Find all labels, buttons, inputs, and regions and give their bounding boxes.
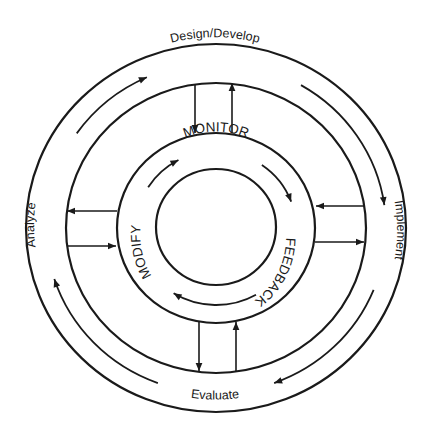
flow-evaluate-to-analyze-arrowhead <box>54 279 60 288</box>
flow-implement-to-evaluate-arrowhead <box>274 377 283 383</box>
flow-design-to-implement <box>301 85 384 205</box>
stage-label-feedback: FEEDBACK <box>252 238 298 310</box>
outer-ring <box>26 44 406 412</box>
flow-monitor-to-feedback-arrowhead <box>285 193 291 202</box>
inner-ring <box>117 133 315 323</box>
stage-label-feedback-text: FEEDBACK <box>252 238 298 310</box>
stage-label-modify: MODIFY <box>128 225 154 282</box>
connector-implement-inward-arrowhead <box>316 203 324 210</box>
flow-evaluate-to-analyze <box>54 279 158 383</box>
core-ring <box>156 169 276 285</box>
stage-label-evaluate-text: Evaluate <box>190 387 239 403</box>
stage-label-modify-text: MODIFY <box>128 225 154 282</box>
process-cycle-diagram: Design/Develop Implement Evaluate Analyz… <box>0 0 429 433</box>
flow-feedback-to-modify <box>174 293 256 305</box>
stage-label-implement-text: Implement <box>392 199 409 261</box>
connector-evaluate-inward-arrowhead <box>196 363 203 371</box>
stage-label-monitor: MONITOR <box>181 119 251 140</box>
connector-evaluate-outward-arrowhead <box>233 322 240 330</box>
connector-analyze-inward-arrowhead <box>108 243 116 250</box>
connector-implement-outward-arrowhead <box>356 239 364 246</box>
flow-implement-to-evaluate <box>274 290 373 383</box>
flow-arrows-group <box>54 77 387 383</box>
rings-group <box>26 44 406 412</box>
stage-label-implement: Implement <box>392 199 409 261</box>
stage-label-evaluate: Evaluate <box>190 387 239 403</box>
stage-label-monitor-text: MONITOR <box>181 119 251 140</box>
flow-design-to-implement-arrowhead <box>380 197 387 205</box>
stage-label-design-text: Design/Develop <box>169 26 262 46</box>
stage-label-design: Design/Develop <box>169 26 262 46</box>
